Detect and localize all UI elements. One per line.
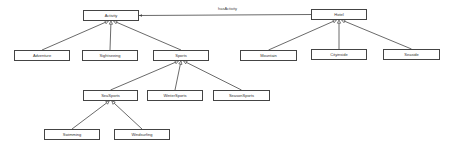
class-hotel[interactable]: Hotel (311, 9, 367, 20)
class-seaside[interactable]: Seaside (383, 49, 440, 60)
generalization-line-sports-activity (117, 22, 181, 50)
generalization-line-seasports-sports (111, 62, 176, 90)
generalization-line-wintersports-sports (175, 64, 180, 90)
generalization-line-sightseeing-activity (110, 24, 111, 50)
class-wintersports[interactable]: WinterSports (147, 90, 203, 101)
class-sightseeing[interactable]: Sightseeing (82, 50, 138, 61)
class-windsurfing[interactable]: Windsurfing (114, 129, 170, 140)
generalization-line-mountain-hotel (269, 21, 334, 50)
class-seasonsports[interactable]: SeasonSports (213, 90, 270, 101)
generalization-arrow-icon (179, 61, 182, 64)
class-label: Windsurfing (131, 132, 152, 137)
class-label: Swimming (63, 132, 81, 137)
edge-label-hasactivity: hasActivity (218, 6, 237, 11)
class-label: Mountain (260, 53, 276, 58)
class-label: Hotel (334, 12, 343, 17)
class-sports[interactable]: Sports (153, 50, 209, 61)
class-cityinside[interactable]: Cityinside (311, 49, 367, 60)
class-adventure[interactable]: Adventure (14, 50, 70, 61)
association-line-hasactivity (139, 15, 311, 16)
generalization-line-seaside-hotel (345, 21, 412, 49)
class-label: Seaside (404, 52, 418, 57)
generalization-line-windsurfing-seasports (114, 103, 142, 129)
class-label: WinterSports (163, 93, 186, 98)
generalization-arrow-icon (337, 20, 340, 23)
class-label: SeaSports (101, 93, 120, 98)
class-label: Sports (175, 53, 187, 58)
generalization-arrow-icon (109, 21, 112, 24)
generalization-line-adventure-activity (42, 22, 105, 50)
class-swimming[interactable]: Swimming (44, 129, 100, 140)
class-mountain[interactable]: Mountain (240, 50, 297, 61)
class-seasports[interactable]: SeaSports (83, 90, 138, 101)
class-label: Cityinside (330, 52, 347, 57)
class-label: SeasonSports (229, 93, 254, 98)
association-arrow-icon (139, 14, 142, 17)
class-activity[interactable]: Activity (83, 10, 139, 21)
diagram-edges (0, 0, 457, 150)
class-label: Sightseeing (100, 53, 121, 58)
diagram-canvas: hasActivity Activity Adventure Sightseei… (0, 0, 457, 150)
class-label: Activity (105, 13, 118, 18)
generalization-line-swimming-seasports (72, 103, 107, 129)
generalization-line-seasonsports-sports (186, 62, 241, 90)
class-label: Adventure (33, 53, 51, 58)
